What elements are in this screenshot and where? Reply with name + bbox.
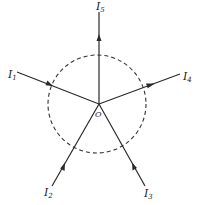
origin-label: O bbox=[95, 110, 102, 119]
label-i5: I5 bbox=[95, 0, 105, 14]
label-i3: I3 bbox=[143, 187, 153, 201]
arrow-icon bbox=[146, 84, 155, 89]
arrow-icon bbox=[46, 81, 54, 86]
current-line-i2 bbox=[52, 104, 99, 186]
arrow-icon bbox=[97, 34, 102, 41]
current-node-diagram: I5 I1 I4 I2 I3 O bbox=[0, 0, 198, 205]
current-line-i5 bbox=[97, 12, 102, 104]
current-line-i3 bbox=[99, 104, 145, 186]
dashed-boundary-circle bbox=[48, 55, 146, 153]
label-i1: I1 bbox=[7, 68, 17, 82]
current-line-i4 bbox=[99, 74, 180, 104]
label-i2: I2 bbox=[43, 186, 53, 200]
current-line-i1 bbox=[17, 72, 99, 104]
label-i4: I4 bbox=[182, 70, 192, 84]
